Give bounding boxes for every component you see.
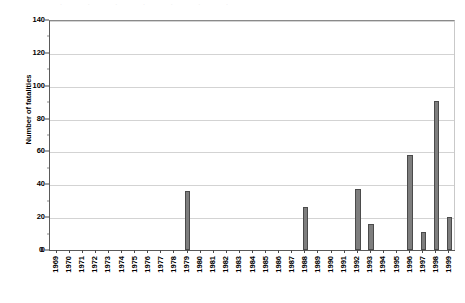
- y-tick-label: 20: [3, 213, 45, 221]
- bar: [407, 155, 413, 250]
- x-tick-label: 1991: [339, 256, 348, 273]
- y-tick-mark: [45, 52, 49, 53]
- x-tick-label: 1983: [234, 256, 243, 273]
- gridline: [50, 218, 454, 219]
- y-tick-minor-mark: [47, 135, 50, 136]
- y-tick-label: 140: [3, 16, 45, 24]
- y-tick-minor-mark: [47, 69, 50, 70]
- x-tick-label: 1993: [365, 256, 374, 273]
- x-tick-mark: [409, 250, 410, 253]
- y-tick-minor-mark: [47, 36, 50, 37]
- x-tick-label: 1998: [431, 256, 440, 273]
- x-tick-mark: [226, 250, 227, 253]
- y-tick-label: 80: [3, 115, 45, 123]
- x-tick-mark: [239, 250, 240, 253]
- y-tick-minor-mark: [47, 233, 50, 234]
- x-tick-mark: [147, 250, 148, 253]
- x-tick-mark: [304, 250, 305, 253]
- x-tick-mark: [357, 250, 358, 253]
- x-tick-mark: [160, 250, 161, 253]
- top-cropped-artifact: · · · · · · ·: [60, 0, 440, 8]
- x-tick-mark: [56, 250, 57, 253]
- x-tick-mark: [95, 250, 96, 253]
- bar: [421, 232, 427, 250]
- x-tick-label: 1973: [103, 256, 112, 273]
- x-tick-mark: [291, 250, 292, 253]
- x-tick-label: 1981: [208, 256, 217, 273]
- x-tick-mark: [317, 250, 318, 253]
- x-tick-label: 1975: [130, 256, 139, 273]
- x-tick-label: 1987: [287, 256, 296, 273]
- y-tick-label: 120: [3, 49, 45, 57]
- x-tick-mark: [69, 250, 70, 253]
- bar: [447, 217, 453, 250]
- x-tick-label: 1992: [352, 256, 361, 273]
- gridline: [50, 87, 454, 88]
- x-tick-label: 1978: [169, 256, 178, 273]
- x-tick-label: 1974: [117, 256, 126, 273]
- y-tick-label: 60: [3, 147, 45, 155]
- y-tick-mark: [45, 85, 49, 86]
- y-tick-minor-mark: [47, 167, 50, 168]
- gridline: [50, 21, 454, 22]
- y-tick-mark: [45, 118, 49, 119]
- x-tick-mark: [265, 250, 266, 253]
- bar: [303, 207, 309, 250]
- x-tick-mark: [383, 250, 384, 253]
- x-tick-label: 1979: [182, 256, 191, 273]
- x-tick-mark: [82, 250, 83, 253]
- bar: [368, 224, 374, 250]
- x-tick-mark: [134, 250, 135, 253]
- x-tick-mark: [187, 250, 188, 253]
- x-tick-label: 1976: [143, 256, 152, 273]
- x-tick-mark: [344, 250, 345, 253]
- bar: [185, 191, 191, 250]
- gridline: [50, 54, 454, 55]
- x-tick-mark: [121, 250, 122, 253]
- y-zero-label: 0: [39, 245, 43, 254]
- bar: [355, 189, 361, 250]
- x-tick-label: 1984: [248, 256, 257, 273]
- x-tick-mark: [370, 250, 371, 253]
- x-tick-label: 1988: [300, 256, 309, 273]
- x-tick-label: 1994: [378, 256, 387, 273]
- x-tick-label: 1989: [313, 256, 322, 273]
- gridline: [50, 185, 454, 186]
- x-tick-mark: [252, 250, 253, 253]
- y-tick-mark: [45, 184, 49, 185]
- x-tick-label: 1999: [444, 256, 453, 273]
- gridline: [50, 120, 454, 121]
- x-tick-label: 1972: [90, 256, 99, 273]
- x-tick-label: 1969: [51, 256, 60, 273]
- fatalities-bar-chart: · · · · · · · Number of fatalities 02040…: [0, 0, 465, 303]
- y-tick-label: 100: [3, 82, 45, 90]
- x-tick-label: 1977: [156, 256, 165, 273]
- x-tick-mark: [422, 250, 423, 253]
- x-tick-label: 1970: [64, 256, 73, 273]
- bar: [434, 101, 440, 251]
- x-tick-label: 1971: [77, 256, 86, 273]
- x-tick-mark: [108, 250, 109, 253]
- x-tick-label: 1997: [418, 256, 427, 273]
- y-tick-minor-mark: [47, 102, 50, 103]
- x-tick-mark: [200, 250, 201, 253]
- y-axis-ticks: 020406080100120140: [0, 0, 45, 303]
- x-tick-label: 1990: [326, 256, 335, 273]
- y-tick-label: 40: [3, 180, 45, 188]
- x-tick-mark: [435, 250, 436, 253]
- plot-area: [49, 20, 455, 250]
- x-tick-label: 1996: [405, 256, 414, 273]
- x-tick-mark: [448, 250, 449, 253]
- x-tick-label: 1986: [274, 256, 283, 273]
- x-tick-mark: [331, 250, 332, 253]
- gridline: [50, 152, 454, 153]
- y-tick-mark: [45, 20, 49, 21]
- y-tick-mark: [45, 250, 49, 251]
- x-tick-mark: [213, 250, 214, 253]
- x-tick-label: 1982: [221, 256, 230, 273]
- y-tick-mark: [45, 151, 49, 152]
- x-tick-mark: [396, 250, 397, 253]
- x-tick-mark: [173, 250, 174, 253]
- x-tick-label: 1985: [261, 256, 270, 273]
- x-tick-label: 1995: [392, 256, 401, 273]
